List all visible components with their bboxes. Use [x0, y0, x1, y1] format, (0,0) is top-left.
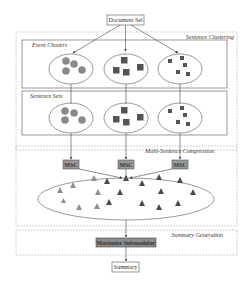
document-set-label: Document Set [108, 17, 142, 23]
sentence-set-large-squares [104, 103, 148, 133]
arrow-msc-1-to-pool [79, 169, 122, 178]
sentence-sets-label: Sentence Sets [30, 93, 63, 99]
msc-box-2: MSC [118, 160, 134, 169]
sentence-clustering-label: Sentence Clustering [186, 34, 234, 40]
maximize-submodular-label: Maximize Submodular [97, 240, 156, 246]
pipeline-diagram: Document Set Sentence Clustering Event C… [0, 0, 251, 285]
arrow-msc-3-to-pool [130, 169, 172, 178]
event-clusters-label: Event Clusters [31, 42, 68, 48]
msc-box-3: MSC [172, 160, 188, 169]
msc-label-3: MSC [173, 162, 186, 168]
msc-label-2: MSC [119, 162, 132, 168]
summary-generation-label: Summary Generation [172, 232, 224, 238]
msc-label-1: MSC [64, 162, 77, 168]
event-cluster-small-squares [158, 54, 202, 84]
compressed-sentence-pool [38, 174, 214, 220]
msc-box-1: MSC [63, 160, 79, 169]
document-set-box: Document Set [107, 15, 144, 25]
event-clusters-box: Event Clusters [22, 40, 227, 88]
arrow-doc-to-cluster-3 [131, 25, 178, 53]
arrow-doc-to-cluster-1 [73, 25, 120, 53]
event-cluster-circles [49, 54, 93, 84]
summary-box: Summary [112, 262, 139, 272]
multi-sentence-compression-label: Multi-Sentence Compression [144, 148, 214, 154]
sentence-set-small-squares [158, 103, 202, 133]
multi-sentence-compression-region: Multi-Sentence Compression [16, 146, 237, 226]
summary-label: Summary [114, 264, 137, 270]
sentence-set-circles [49, 103, 93, 133]
maximize-submodular-box: Maximize Submodular [96, 238, 156, 247]
event-cluster-large-squares [104, 54, 148, 84]
